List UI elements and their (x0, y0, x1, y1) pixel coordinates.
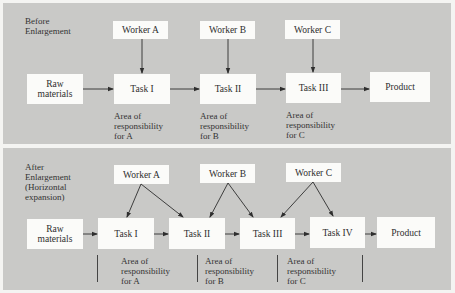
label: Product (385, 82, 415, 92)
label: Task III (299, 83, 329, 93)
after-separator-4 (362, 255, 363, 282)
label: Worker B (209, 25, 246, 35)
after-task-3-box: Task III (240, 218, 295, 249)
after-area-c: Area of responsibility for C (287, 256, 336, 286)
label: Area of (200, 111, 249, 121)
label: Worker B (209, 169, 246, 179)
after-area-b: Area of responsibility for B (205, 256, 254, 286)
before-area-c: Area of responsibility for C (286, 110, 335, 140)
after-area-a: Area of responsibility for A (121, 256, 170, 286)
before-worker-a-box: Worker A (113, 21, 168, 39)
before-worker-b-box: Worker B (200, 21, 255, 39)
label: Task I (114, 229, 137, 239)
before-title-line1: Before (25, 16, 71, 26)
label: for A (121, 276, 170, 286)
label: Worker C (295, 168, 332, 178)
before-area-b: Area of responsibility for B (200, 111, 249, 141)
after-title-line2: Enlargement (25, 172, 71, 182)
label: Area of (114, 111, 163, 121)
label: responsibility (287, 266, 336, 276)
after-worker-c-box: Worker C (286, 163, 341, 182)
after-worker-a-box: Worker A (114, 165, 169, 184)
after-worker-b-box: Worker B (200, 164, 255, 183)
before-raw-materials-box: Raw materials (27, 74, 83, 104)
label: for A (114, 131, 163, 141)
label: Task II (184, 229, 211, 239)
label: responsibility (114, 121, 163, 131)
after-title-line3: (Horizontal (25, 182, 71, 192)
label: Area of (287, 256, 336, 266)
label: Area of (205, 256, 254, 266)
label: for C (287, 276, 336, 286)
before-worker-c-box: Worker C (285, 20, 340, 39)
before-title: Before Enlargement (25, 16, 71, 36)
label: Area of (121, 256, 170, 266)
label: Task III (253, 229, 283, 239)
after-separator-2 (197, 255, 198, 282)
after-title-line4: expansion) (25, 192, 71, 202)
after-title: After Enlargement (Horizontal expansion) (25, 162, 71, 202)
label: for C (286, 130, 335, 140)
label: for B (200, 131, 249, 141)
before-title-line2: Enlargement (25, 26, 71, 36)
label: responsibility (205, 266, 254, 276)
after-title-line1: After (25, 162, 71, 172)
label: Task IV (322, 228, 352, 238)
label: Area of (286, 110, 335, 120)
label: materials (38, 89, 73, 99)
after-product-box: Product (377, 217, 435, 248)
label: Raw (46, 79, 63, 89)
before-task-3-box: Task III (286, 73, 341, 103)
label: Worker A (123, 170, 160, 180)
after-separator-3 (277, 255, 278, 282)
after-raw-materials-box: Raw materials (27, 219, 83, 249)
label: Raw (46, 224, 63, 234)
label: Worker C (294, 25, 331, 35)
label: responsibility (200, 121, 249, 131)
label: Task II (215, 84, 242, 94)
after-separator-1 (97, 255, 98, 282)
label: Product (391, 228, 421, 238)
before-product-box: Product (370, 72, 430, 102)
label: materials (38, 234, 73, 244)
before-task-2-box: Task II (200, 74, 256, 104)
before-task-1-box: Task I (114, 74, 170, 104)
before-area-a: Area of responsibility for A (114, 111, 163, 141)
after-task-2-box: Task II (169, 218, 225, 249)
label: for B (205, 276, 254, 286)
label: Worker A (122, 25, 159, 35)
label: Task I (130, 84, 153, 94)
label: responsibility (286, 120, 335, 130)
after-task-1-box: Task I (98, 218, 154, 249)
label: responsibility (121, 266, 170, 276)
after-task-4-box: Task IV (310, 217, 365, 248)
